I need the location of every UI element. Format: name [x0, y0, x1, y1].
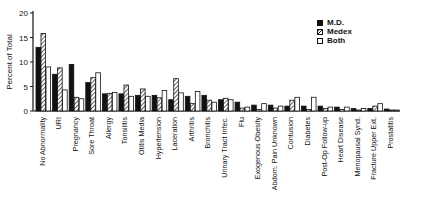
- bar-chart: 05101520Percent of Total No AbnormalityU…: [0, 0, 425, 203]
- x-tick-label: Abdom. Pain Unknown: [270, 117, 279, 190]
- bar-medex: [141, 89, 146, 111]
- bar-medex: [224, 98, 229, 111]
- bar-both: [179, 93, 184, 111]
- x-tick-label: Urinary Tract Infec.: [220, 117, 229, 178]
- bar-both: [361, 109, 366, 111]
- bar-md: [219, 100, 224, 111]
- legend-label: Both: [327, 36, 345, 45]
- x-tick-label: No Abnormality: [38, 117, 47, 166]
- x-tick-label: Bronchitis: [203, 117, 212, 149]
- bar-both: [245, 107, 250, 111]
- bar-medex: [290, 100, 295, 111]
- x-tick-label: Heart Disease: [336, 117, 345, 163]
- x-tick-label: Exogenous Obesity: [253, 117, 262, 180]
- bar-md: [384, 109, 389, 111]
- bar-medex: [74, 97, 79, 111]
- bar-md: [235, 102, 240, 111]
- bar-md: [202, 95, 207, 111]
- bar-both: [278, 106, 283, 111]
- bar-both: [79, 99, 84, 111]
- bar-medex: [157, 98, 162, 111]
- legend-item-medex: Medex: [317, 27, 352, 36]
- bar-both: [295, 97, 300, 111]
- bar-md: [53, 74, 58, 111]
- bar-medex: [340, 110, 345, 111]
- legend-label: Medex: [327, 27, 352, 36]
- bar-both: [378, 104, 383, 111]
- y-tick-label: 0: [24, 107, 29, 116]
- bar-both: [129, 96, 134, 111]
- bar-md: [136, 95, 141, 111]
- bar-medex: [41, 34, 46, 111]
- bar-both: [162, 90, 167, 111]
- bar-md: [285, 106, 290, 111]
- bar-both: [262, 104, 267, 111]
- bar-md: [119, 94, 124, 111]
- bar-md: [335, 107, 340, 111]
- x-tick-label: Tonsilitis: [120, 117, 129, 145]
- x-tick-label: Sore Throat: [87, 117, 96, 155]
- x-tick-label: Post-Op Follow-up: [320, 117, 329, 177]
- bar-medex: [124, 85, 129, 111]
- bar-medex: [207, 100, 212, 111]
- legend-label: M.D.: [327, 18, 344, 27]
- x-tick-label: Menopausal Synd.: [353, 117, 362, 177]
- bar-both: [212, 102, 217, 111]
- bar-medex: [240, 108, 245, 111]
- x-tick-label: Otitis Media: [137, 117, 146, 155]
- bar-both: [112, 92, 117, 111]
- bar-md: [301, 106, 306, 111]
- bar-both: [195, 91, 200, 111]
- bar-md: [69, 64, 74, 111]
- y-tick-label: 20: [19, 9, 28, 18]
- legend-item-both: Both: [317, 36, 352, 45]
- x-tick-label: Arthritis: [187, 117, 196, 142]
- bars: [36, 34, 399, 111]
- legend: M.D. Medex Both: [317, 18, 352, 45]
- bar-md: [318, 106, 323, 111]
- bar-medex: [107, 93, 112, 111]
- bar-both: [96, 73, 101, 111]
- bar-md: [36, 47, 41, 111]
- bar-md: [252, 105, 257, 111]
- bar-both: [311, 97, 316, 111]
- bar-medex: [174, 79, 179, 111]
- bar-medex: [373, 106, 378, 111]
- bar-both: [345, 107, 350, 111]
- bar-md: [351, 109, 356, 111]
- bar-medex: [356, 110, 361, 111]
- x-tick-label: Fracture Upper Ext.: [369, 117, 378, 180]
- bar-md: [152, 95, 157, 111]
- md-swatch-icon: [317, 20, 323, 26]
- y-axis-label: Percent of Total: [5, 34, 14, 90]
- x-tick-label: Flu: [237, 117, 246, 127]
- bar-medex: [389, 110, 394, 111]
- bar-md: [86, 83, 91, 111]
- bar-both: [146, 96, 151, 111]
- both-swatch-icon: [317, 38, 323, 44]
- x-tick-label: Allergy: [104, 117, 113, 139]
- x-tick-label: Contusion: [286, 117, 295, 149]
- bar-medex: [190, 104, 195, 111]
- y-tick-label: 5: [24, 83, 29, 92]
- medex-swatch-icon: [317, 29, 323, 35]
- bar-medex: [91, 78, 96, 111]
- y-tick-label: 10: [19, 58, 28, 67]
- x-axis-labels: No AbnormalityURIPregnancySore ThroatAll…: [38, 117, 395, 191]
- bar-both: [394, 110, 399, 111]
- bar-medex: [58, 68, 63, 111]
- x-tick-label: Laceration: [170, 117, 179, 151]
- x-tick-label: URI: [54, 117, 63, 129]
- bar-medex: [323, 109, 328, 111]
- x-tick-label: Prostatitis: [386, 117, 395, 149]
- x-tick-label: Pregnancy: [71, 117, 80, 152]
- bar-md: [102, 94, 107, 111]
- x-tick-label: Hypertension: [154, 117, 163, 159]
- bar-medex: [273, 108, 278, 111]
- bar-md: [169, 100, 174, 111]
- bar-md: [368, 109, 373, 111]
- bar-both: [46, 67, 51, 111]
- bar-both: [63, 90, 68, 111]
- bar-medex: [306, 110, 311, 111]
- bar-both: [229, 100, 234, 111]
